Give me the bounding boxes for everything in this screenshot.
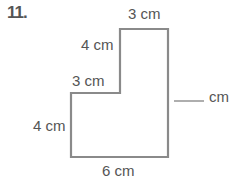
label-right-unknown: cm <box>209 88 229 105</box>
label-bottom: 6 cm <box>102 162 135 179</box>
label-top: 3 cm <box>128 5 161 22</box>
label-lower-left: 4 cm <box>33 117 66 134</box>
label-upper-left: 4 cm <box>81 36 114 53</box>
label-step: 3 cm <box>72 72 105 89</box>
